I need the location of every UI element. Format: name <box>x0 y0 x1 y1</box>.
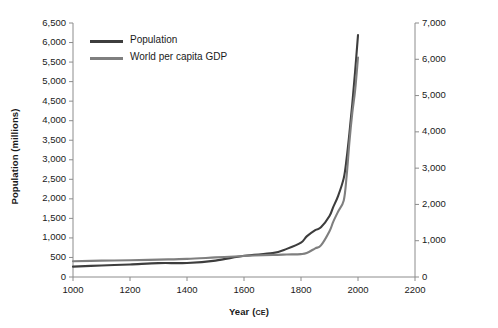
y-axis-right-tick-label: 1,000 <box>422 234 462 245</box>
y-axis-right-tick-label: 3,000 <box>422 162 462 173</box>
y-axis-left-tick-label: 1,000 <box>31 231 66 242</box>
y-axis-right-tick-label: 7,000 <box>422 17 462 28</box>
x-axis-tick-label: 1800 <box>276 284 326 295</box>
y-axis-right-tick-label: 0 <box>422 271 462 282</box>
y-axis-right-tick-label: 4,000 <box>422 125 462 136</box>
y-axis-right-tick-label: 5,000 <box>422 89 462 100</box>
y-axis-left-tick-label: 2,000 <box>31 192 66 203</box>
x-axis-tick-label: 2200 <box>390 284 440 295</box>
y-axis-right-tick-label: 2,000 <box>422 198 462 209</box>
y-axis-right-tick-label: 6,000 <box>422 53 462 64</box>
y-axis-left-tick-label: 2,500 <box>31 173 66 184</box>
x-axis-tick-label: 1000 <box>48 284 98 295</box>
y-axis-left-tick-label: 6,500 <box>31 17 66 28</box>
legend-swatch-population <box>90 40 123 43</box>
y-axis-left-tick-label: 6,000 <box>31 36 66 47</box>
legend-label-gdp: World per capita GDP <box>130 51 227 62</box>
y-axis-left-tick-label: 4,000 <box>31 114 66 125</box>
x-axis-tick-label: 2000 <box>333 284 383 295</box>
y-axis-left-tick-label: 5,500 <box>31 56 66 67</box>
chart-figure: Population (millions) World per capita G… <box>0 0 498 328</box>
legend-label-population: Population <box>130 34 177 45</box>
y-axis-left-tick-label: 5,000 <box>31 75 66 86</box>
legend-swatch-gdp <box>90 57 123 60</box>
y-axis-left-tick-label: 3,500 <box>31 134 66 145</box>
series-line-population <box>73 35 358 267</box>
y-axis-left-tick-label: 500 <box>31 251 66 262</box>
y-axis-left-tick-label: 1,500 <box>31 212 66 223</box>
y-axis-left-tick-label: 4,500 <box>31 95 66 106</box>
x-axis-tick-label: 1400 <box>162 284 212 295</box>
y-axis-left-tick-label: 3,000 <box>31 153 66 164</box>
y-axis-left-tick-label: 0 <box>31 271 66 282</box>
x-axis-tick-label: 1200 <box>105 284 155 295</box>
x-axis-tick-label: 1600 <box>219 284 269 295</box>
